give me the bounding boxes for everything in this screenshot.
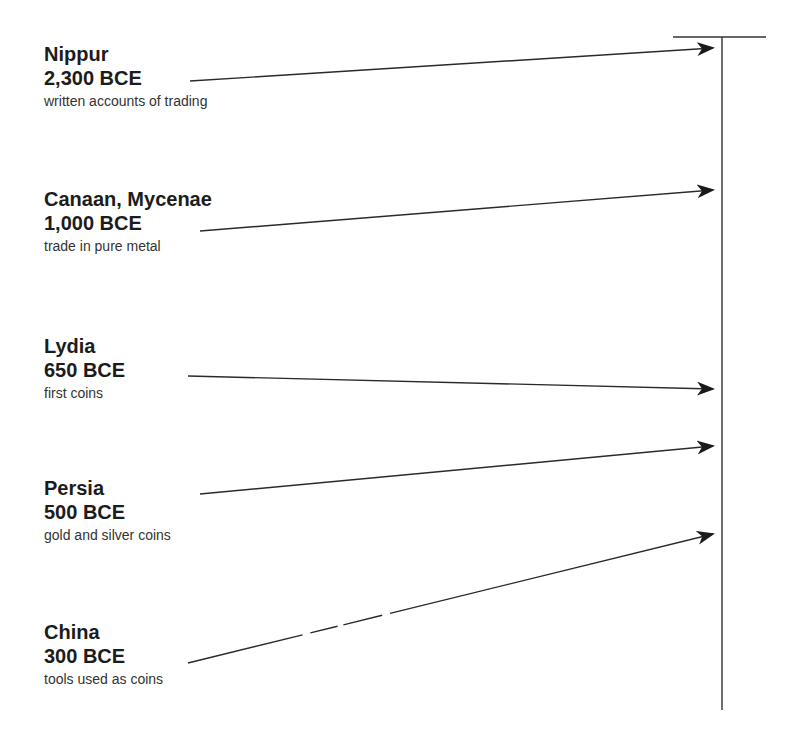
timeline-axis (673, 37, 766, 710)
entry-place: Persia (44, 476, 171, 500)
entry-place: Canaan, Mycenae (44, 187, 212, 211)
timeline-entry-nippur: Nippur 2,300 BCE written accounts of tra… (44, 42, 207, 110)
timeline-entry-persia: Persia 500 BCE gold and silver coins (44, 476, 171, 544)
entry-description: first coins (44, 384, 125, 402)
entry-date: 1,000 BCE (44, 211, 212, 235)
entry-date: 500 BCE (44, 500, 171, 524)
arrow-lydia (188, 376, 713, 389)
timeline-entry-canaan-mycenae: Canaan, Mycenae 1,000 BCE trade in pure … (44, 187, 212, 255)
entry-description: tools used as coins (44, 670, 163, 688)
entry-date: 2,300 BCE (44, 66, 207, 90)
entry-place: Lydia (44, 334, 125, 358)
entry-place: Nippur (44, 42, 207, 66)
arrow-nippur (190, 48, 713, 81)
timeline-entry-lydia: Lydia 650 BCE first coins (44, 334, 125, 402)
entry-place: China (44, 620, 163, 644)
entry-description: gold and silver coins (44, 526, 171, 544)
entry-date: 300 BCE (44, 644, 163, 668)
arrow-china (188, 534, 713, 663)
arrow-canaan (200, 190, 713, 231)
entry-description: trade in pure metal (44, 237, 212, 255)
arrow-persia (200, 446, 713, 494)
entry-description: written accounts of trading (44, 92, 207, 110)
timeline-entry-china: China 300 BCE tools used as coins (44, 620, 163, 688)
entry-date: 650 BCE (44, 358, 125, 382)
